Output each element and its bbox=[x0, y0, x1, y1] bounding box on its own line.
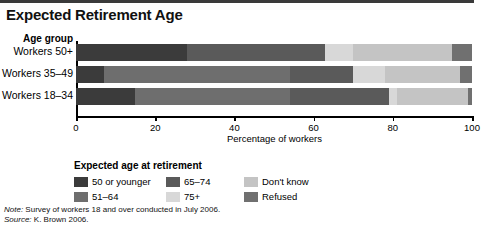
note-line: Note: Survey of workers 18 and over cond… bbox=[4, 205, 220, 215]
legend-swatch-icon bbox=[166, 177, 180, 187]
category-axis-title: Age group bbox=[23, 33, 73, 44]
legend-swatch-icon bbox=[74, 177, 88, 187]
bar-segment bbox=[353, 44, 452, 61]
legend: Expected age at retirement 50 or younger… bbox=[74, 160, 374, 204]
x-axis-tick bbox=[472, 116, 474, 121]
x-axis-tick-label: 60 bbox=[294, 122, 334, 133]
legend-label: 51–64 bbox=[92, 191, 118, 202]
x-axis-tick-label: 100 bbox=[452, 122, 485, 133]
legend-item[interactable]: 51–64 bbox=[74, 191, 166, 202]
bar-segment bbox=[385, 66, 460, 83]
legend-label: Refused bbox=[262, 191, 297, 202]
bar-segment bbox=[325, 44, 353, 61]
bar-segment bbox=[452, 44, 472, 61]
legend-swatch-icon bbox=[244, 192, 258, 202]
bar-segment bbox=[389, 88, 397, 105]
bar-segment bbox=[460, 66, 472, 83]
x-axis-tick-label: 80 bbox=[373, 122, 413, 133]
x-axis-tick bbox=[234, 116, 236, 121]
bar-workers-50-plus bbox=[76, 44, 472, 61]
legend-title: Expected age at retirement bbox=[74, 160, 374, 171]
legend-items: 50 or younger65–74Don't know51–6475+Refu… bbox=[74, 174, 374, 204]
legend-label: 65–74 bbox=[184, 176, 210, 187]
legend-item[interactable]: 50 or younger bbox=[74, 176, 166, 187]
x-axis-tick bbox=[314, 116, 316, 121]
x-axis-title: Percentage of workers bbox=[76, 133, 473, 144]
x-axis-tick bbox=[393, 116, 395, 121]
bar-segment bbox=[468, 88, 472, 105]
category-axis: Age group Workers 50+ Workers 35–49 Work… bbox=[0, 0, 73, 140]
bar-segment bbox=[290, 88, 389, 105]
legend-item[interactable]: 75+ bbox=[166, 191, 244, 202]
bar-workers-35-49 bbox=[76, 66, 472, 83]
x-axis-tick bbox=[76, 116, 78, 121]
category-label-workers-35-49: Workers 35–49 bbox=[2, 67, 73, 79]
note-text: Survey of workers 18 and over conducted … bbox=[23, 205, 220, 214]
legend-label: 75+ bbox=[184, 191, 200, 202]
x-axis-tick bbox=[155, 116, 157, 121]
legend-item[interactable]: 65–74 bbox=[166, 176, 244, 187]
bar-segment bbox=[397, 88, 468, 105]
bar-segment bbox=[353, 66, 385, 83]
x-axis-line bbox=[76, 116, 473, 118]
bar-segment bbox=[104, 66, 290, 83]
bar-segment bbox=[135, 88, 289, 105]
x-axis-tick-label: 0 bbox=[56, 122, 96, 133]
note-label: Note: bbox=[4, 205, 23, 214]
bar-segment bbox=[187, 44, 326, 61]
bar-segment bbox=[290, 66, 353, 83]
bar-workers-18-34 bbox=[76, 88, 472, 105]
category-label-workers-50-plus: Workers 50+ bbox=[13, 45, 73, 57]
x-axis-tick-label: 20 bbox=[135, 122, 175, 133]
bar-segment bbox=[76, 66, 104, 83]
legend-swatch-icon bbox=[74, 192, 88, 202]
legend-item[interactable]: Don't know bbox=[244, 176, 354, 187]
legend-swatch-icon bbox=[244, 177, 258, 187]
plot-area bbox=[76, 41, 472, 115]
bar-segment bbox=[76, 44, 187, 61]
source-label: Source: bbox=[4, 215, 32, 224]
legend-label: Don't know bbox=[262, 176, 309, 187]
category-label-workers-18-34: Workers 18–34 bbox=[2, 89, 73, 101]
legend-label: 50 or younger bbox=[92, 176, 151, 187]
x-axis-tick-label: 40 bbox=[214, 122, 254, 133]
source-line: Source: K. Brown 2006. bbox=[4, 215, 220, 225]
bar-segment bbox=[76, 88, 135, 105]
source-text: K. Brown 2006. bbox=[32, 215, 89, 224]
legend-item[interactable]: Refused bbox=[244, 191, 354, 202]
legend-swatch-icon bbox=[166, 192, 180, 202]
footnotes: Note: Survey of workers 18 and over cond… bbox=[4, 205, 220, 225]
